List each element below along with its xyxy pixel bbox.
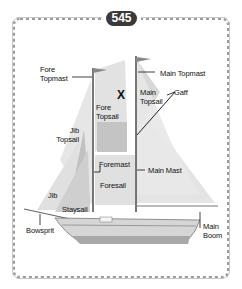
- label-foresail: Foresail: [100, 181, 126, 190]
- main-pennant: [136, 57, 151, 62]
- label-staysail: Staysail: [62, 205, 87, 214]
- label-main-mast: Main Mast: [148, 166, 182, 175]
- label-jib: Jib: [48, 191, 57, 200]
- label-foremast: Foremast: [99, 160, 130, 169]
- label-fore-topsail: Fore Topsail: [96, 103, 119, 121]
- page-number-badge: 545: [106, 11, 137, 26]
- label-jib-topsail: Jib Topsail: [55, 126, 79, 144]
- schooner-illustration: [0, 0, 242, 289]
- label-bowsprit: Bowsprit: [26, 226, 54, 235]
- label-fore-topmast: Fore Topmast: [40, 65, 68, 83]
- label-main-topmast: Main Topmast: [160, 69, 205, 78]
- label-main-boom: Main Boom: [203, 222, 222, 240]
- target-marker-x: X: [117, 88, 125, 102]
- label-main-topsail: Main Topsail: [140, 88, 163, 106]
- label-gaff: Gaff: [174, 88, 188, 97]
